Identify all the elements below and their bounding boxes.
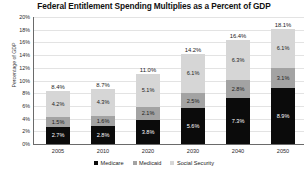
legend-swatch <box>94 161 98 165</box>
bar-stack[interactable]: 7.3%2.8%6.3%16.4% <box>226 40 250 144</box>
bar-segment[interactable]: 3.1% <box>271 68 295 88</box>
bar-segment-value-label: 3.1% <box>271 75 295 81</box>
bar-segment[interactable]: 2.8% <box>91 126 115 144</box>
bar-total-label: 18.1% <box>267 22 299 28</box>
legend-item[interactable]: Medicaid <box>133 160 162 166</box>
x-axis-tick-label: 2040 <box>222 148 254 154</box>
legend-label: Medicaid <box>139 160 161 166</box>
y-axis-line <box>33 17 34 145</box>
y-axis-tick-label: 20% <box>19 14 30 20</box>
bar-segment[interactable]: 1.6% <box>91 116 115 126</box>
bar-stack[interactable]: 3.8%2.1%5.1%11.0% <box>136 74 160 144</box>
legend-item[interactable]: Medicare <box>94 160 124 166</box>
y-axis-tick-label: 16% <box>19 39 30 45</box>
bar-segment[interactable]: 5.1% <box>136 74 160 106</box>
gridline <box>33 131 304 132</box>
legend-label: Medicare <box>101 160 124 166</box>
plot-area: 0%2%4%6%8%10%12%14%16%18%20% 2.7%1.5%4.2… <box>33 17 304 145</box>
bar-segment-value-label: 4.3% <box>91 99 115 105</box>
bar-total-label: 16.4% <box>222 33 254 39</box>
y-axis-tick-label: 18% <box>19 27 30 33</box>
y-axis-tick-label: 6% <box>22 103 30 109</box>
x-axis-line <box>33 144 304 145</box>
bar-segment[interactable]: 2.5% <box>181 93 205 109</box>
chart-legend: MedicareMedicaidSocial Security <box>0 160 308 166</box>
x-axis-tick-label: 2005 <box>42 148 74 154</box>
bar-segment[interactable]: 5.6% <box>181 108 205 144</box>
bar-segment[interactable]: 3.8% <box>136 120 160 144</box>
bar-segment-value-label: 2.1% <box>136 110 160 116</box>
x-axis-tick-label: 2020 <box>132 148 164 154</box>
bar-segment[interactable]: 1.5% <box>46 117 70 127</box>
bar-total-label: 11.0% <box>132 67 164 73</box>
chart-container: Federal Entitlement Spending Multiplies … <box>0 0 308 173</box>
y-axis-title: Percentage of GDP <box>11 30 17 100</box>
bar-segment-value-label: 6.1% <box>271 45 295 51</box>
bar-segment[interactable]: 2.7% <box>46 127 70 144</box>
bar-segment-value-label: 2.8% <box>91 132 115 138</box>
legend-label: Social Security <box>177 160 214 166</box>
bar-segment[interactable]: 2.8% <box>226 80 250 98</box>
gridline <box>33 30 304 31</box>
gridline <box>33 68 304 69</box>
gridline <box>33 55 304 56</box>
chart-title: Federal Entitlement Spending Multiplies … <box>0 1 308 12</box>
bar-segment-value-label: 5.1% <box>136 87 160 93</box>
bar-segment[interactable]: 4.3% <box>91 89 115 116</box>
bar-segment[interactable]: 6.1% <box>271 29 295 68</box>
bar-segment-value-label: 6.1% <box>181 70 205 76</box>
bar-segment[interactable]: 7.3% <box>226 98 250 144</box>
legend-swatch <box>170 161 174 165</box>
bar-stack[interactable]: 5.6%2.5%6.1%14.2% <box>181 54 205 144</box>
bar-segment-value-label: 3.8% <box>136 129 160 135</box>
gridline <box>33 106 304 107</box>
legend-item[interactable]: Social Security <box>170 160 214 166</box>
bar-segment-value-label: 1.6% <box>91 118 115 124</box>
bar-segment-value-label: 4.2% <box>46 101 70 107</box>
bar-segment[interactable]: 4.2% <box>46 91 70 118</box>
bar-segment-value-label: 8.9% <box>271 113 295 119</box>
x-axis-tick-label: 2050 <box>267 148 299 154</box>
bar-total-label: 8.4% <box>42 84 74 90</box>
y-axis-tick-label: 4% <box>22 116 30 122</box>
bar-segment-value-label: 5.6% <box>181 123 205 129</box>
bar-segment[interactable]: 2.1% <box>136 107 160 120</box>
legend-swatch <box>133 161 137 165</box>
bar-total-label: 8.7% <box>87 82 119 88</box>
bar-segment-value-label: 1.5% <box>46 119 70 125</box>
bar-segment[interactable]: 6.3% <box>226 40 250 80</box>
y-axis-tick-label: 14% <box>19 52 30 58</box>
bar-segment[interactable]: 8.9% <box>271 88 295 145</box>
bar-stack[interactable]: 2.8%1.6%4.3%8.7% <box>91 89 115 144</box>
y-axis-tick-label: 2% <box>22 128 30 134</box>
gridline <box>33 119 304 120</box>
bar-segment-value-label: 6.3% <box>226 57 250 63</box>
bar-segment-value-label: 2.7% <box>46 132 70 138</box>
y-axis-tick-label: 12% <box>19 65 30 71</box>
y-axis-tick-label: 0% <box>22 141 30 147</box>
bar-segment-value-label: 2.5% <box>181 98 205 104</box>
bar-segment[interactable]: 6.1% <box>181 54 205 93</box>
gridline <box>33 17 304 18</box>
bar-total-label: 14.2% <box>177 47 209 53</box>
gridline <box>33 42 304 43</box>
x-axis-tick-label: 2010 <box>87 148 119 154</box>
gridline <box>33 93 304 94</box>
bar-segment-value-label: 7.3% <box>226 118 250 124</box>
bar-stack[interactable]: 2.7%1.5%4.2%8.4% <box>46 91 70 144</box>
bar-stack[interactable]: 8.9%3.1%6.1%18.1% <box>271 29 295 144</box>
y-axis-tick-label: 8% <box>22 90 30 96</box>
bar-segment-value-label: 2.8% <box>226 86 250 92</box>
x-axis-tick-label: 2030 <box>177 148 209 154</box>
gridline <box>33 81 304 82</box>
y-axis-tick-label: 10% <box>19 78 30 84</box>
